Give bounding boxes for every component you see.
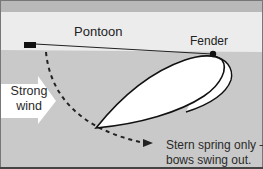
wind-label-line2: wind (8, 99, 50, 114)
wind-label: Strong wind (8, 84, 50, 114)
wind-label-line1: Strong (8, 84, 50, 99)
caption-line2: bows swing out. (166, 153, 263, 168)
cleat-icon (24, 42, 36, 48)
caption: Stern spring only – bows swing out. (166, 138, 263, 168)
top-band (0, 0, 263, 12)
fender-label: Fender (190, 35, 228, 47)
fender-icon (210, 51, 216, 57)
caption-line1: Stern spring only – (166, 138, 263, 153)
pontoon-label: Pontoon (74, 25, 122, 38)
mooring-diagram: Pontoon Fender Strong wind Stern spring … (0, 0, 263, 169)
